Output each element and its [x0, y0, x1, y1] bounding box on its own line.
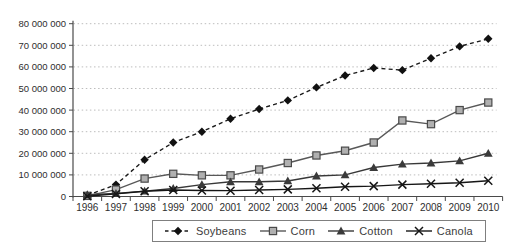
- x-tick-label: 1996: [76, 202, 99, 213]
- cotton-triangle-icon: [328, 225, 354, 237]
- x-tick-label: 2006: [363, 202, 386, 213]
- data-point-marker: [484, 35, 492, 43]
- data-point-marker: [313, 152, 320, 159]
- data-point-marker: [141, 175, 148, 182]
- x-tick-label: 2010: [477, 202, 500, 213]
- y-tick-label: 80 000 000: [18, 18, 66, 29]
- x-tick-label: 2004: [305, 202, 328, 213]
- data-point-marker: [427, 54, 435, 62]
- data-point-marker: [341, 71, 349, 79]
- data-point-marker: [198, 128, 206, 136]
- y-tick-label: 10 000 000: [18, 169, 66, 180]
- x-tick-label: 1999: [162, 202, 185, 213]
- data-point-marker: [312, 83, 320, 91]
- data-point-marker: [174, 227, 182, 235]
- data-point-marker: [255, 105, 263, 113]
- legend-item-cotton: Cotton: [328, 225, 393, 237]
- chart-canvas: 010 000 00020 000 00030 000 00040 000 00…: [0, 0, 512, 250]
- x-tick-label: 1998: [133, 202, 156, 213]
- data-point-marker: [169, 138, 177, 146]
- legend: Soybeans Corn Cotton Canola: [152, 220, 486, 242]
- y-tick-label: 0: [61, 191, 66, 202]
- data-point-marker: [485, 99, 492, 106]
- data-point-marker: [341, 147, 348, 154]
- data-point-marker: [455, 42, 463, 50]
- y-tick-label: 50 000 000: [18, 83, 66, 94]
- y-tick-label: 20 000 000: [18, 148, 66, 159]
- data-point-marker: [456, 107, 463, 114]
- legend-item-corn: Corn: [260, 225, 316, 237]
- canola-legend-glyph: [406, 225, 432, 237]
- data-point-marker: [226, 115, 234, 123]
- x-tick-label: 2005: [334, 202, 357, 213]
- corn-square-icon: [260, 225, 286, 237]
- soybeans-diamond-icon: [165, 225, 191, 237]
- data-point-marker: [269, 227, 276, 234]
- soybeans-legend-label: Soybeans: [196, 225, 247, 237]
- x-tick-label: 2003: [277, 202, 300, 213]
- data-point-marker: [398, 66, 406, 74]
- x-tick-label: 2001: [219, 202, 242, 213]
- y-tick-label: 40 000 000: [18, 105, 66, 116]
- canola-legend-label: Canola: [437, 225, 473, 237]
- data-point-marker: [484, 149, 493, 157]
- data-point-marker: [198, 172, 205, 179]
- x-tick-label: 1997: [105, 202, 128, 213]
- y-tick-label: 70 000 000: [18, 40, 66, 51]
- data-point-marker: [370, 64, 378, 72]
- data-point-marker: [170, 170, 177, 177]
- x-tick-label: 2007: [391, 202, 414, 213]
- data-point-marker: [399, 117, 406, 124]
- data-point-marker: [140, 156, 148, 164]
- soybeans-series-line: [87, 39, 488, 196]
- data-point-marker: [370, 139, 377, 146]
- data-point-marker: [284, 96, 292, 104]
- cotton-legend-label: Cotton: [359, 225, 393, 237]
- soybeans-legend-glyph: [165, 225, 191, 237]
- legend-item-soybeans: Soybeans: [165, 225, 247, 237]
- x-tick-label: 2008: [420, 202, 443, 213]
- data-point-marker: [284, 159, 291, 166]
- data-point-marker: [256, 166, 263, 173]
- x-tick-label: 2000: [191, 202, 214, 213]
- data-point-marker: [427, 121, 434, 128]
- y-tick-label: 60 000 000: [18, 61, 66, 72]
- y-tick-label: 30 000 000: [18, 126, 66, 137]
- cotton-legend-glyph: [328, 225, 354, 237]
- x-tick-label: 2002: [248, 202, 271, 213]
- corn-legend-glyph: [260, 225, 286, 237]
- legend-item-canola: Canola: [406, 225, 473, 237]
- corn-legend-label: Corn: [291, 225, 316, 237]
- x-tick-label: 2009: [449, 202, 472, 213]
- chart-figure: 010 000 00020 000 00030 000 00040 000 00…: [0, 0, 512, 250]
- canola-x-icon: [406, 225, 432, 237]
